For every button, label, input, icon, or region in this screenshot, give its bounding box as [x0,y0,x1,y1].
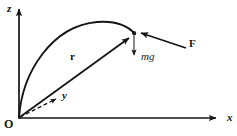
axis-y-line [20,99,56,117]
position-vector-label: r [70,51,75,62]
particle-dot [132,31,136,35]
axis-y-label: y [62,90,67,101]
origin-label: O [4,118,13,130]
diagram-canvas [0,0,237,136]
physics-diagram: z x y O r mg F [0,0,237,136]
weight-vector-label: mg [141,51,154,62]
applied-force-vector-arrow [141,33,186,48]
applied-force-vector-label: F [189,38,196,49]
trajectory-curve [19,22,135,118]
axis-x-label: x [227,112,233,123]
axis-z-label: z [7,3,11,14]
